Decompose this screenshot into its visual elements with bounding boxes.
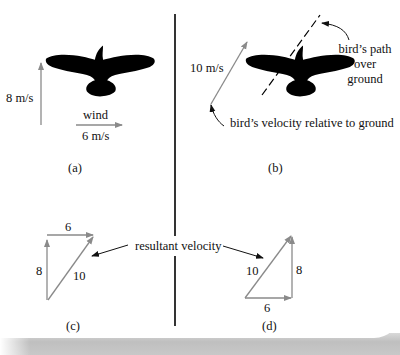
arrow-resultant-right: [223, 246, 263, 258]
label-path-line3: ground: [330, 73, 400, 86]
arrow-velocity-annotation: [211, 105, 224, 126]
label-d-8: 8: [296, 264, 302, 277]
arrow-path-annotation: [322, 23, 349, 40]
label-path-line2: over: [330, 58, 400, 71]
caption-c: (c): [66, 320, 80, 333]
caption-b: (b): [268, 162, 283, 175]
label-path-line1: bird’s path: [330, 43, 400, 56]
label-d-10: 10: [246, 265, 259, 278]
label-10-ms: 10 m/s: [190, 62, 224, 75]
label-wind: wind: [83, 109, 108, 122]
label-velocity-relative: bird’s velocity relative to ground: [230, 117, 394, 130]
label-8-ms: 8 m/s: [6, 92, 33, 105]
caption-a: (a): [68, 162, 82, 175]
label-resultant-velocity: resultant velocity: [135, 240, 221, 253]
label-d-6: 6: [264, 302, 270, 315]
label-6-ms: 6 m/s: [82, 130, 109, 143]
label-c-10: 10: [73, 270, 86, 283]
arrow-resultant-left: [92, 245, 128, 256]
vector-c-10: [48, 237, 93, 300]
label-c-6: 6: [65, 221, 71, 234]
bird-silhouette-a: [46, 46, 155, 97]
caption-d: (d): [262, 320, 277, 333]
label-c-8: 8: [36, 265, 42, 278]
